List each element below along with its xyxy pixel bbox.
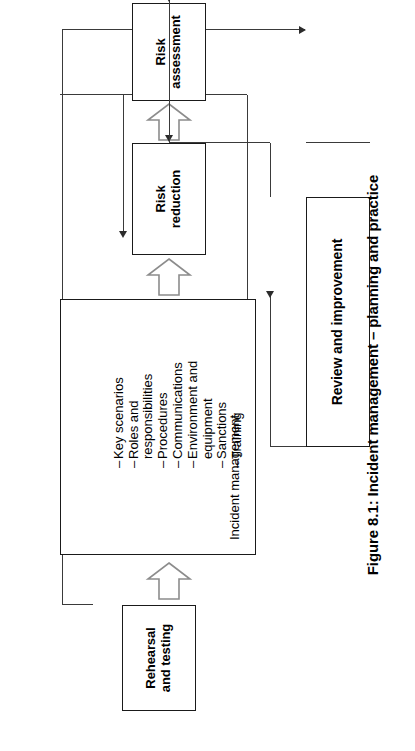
bullet-dash: – xyxy=(112,459,127,468)
list-item: –Procedures xyxy=(156,361,171,468)
node-rehearsal-and-testing[interactable]: Rehearsal and testing xyxy=(122,605,196,711)
node-review-and-improvement[interactable]: Review and improvement xyxy=(306,197,370,447)
feedback-review-exit xyxy=(270,143,271,197)
bullet-dash: – xyxy=(156,459,171,468)
list-item-label: Environment and xyxy=(185,361,200,459)
list-item: responsibilities xyxy=(141,361,156,468)
arrowhead-into-risk-reduction xyxy=(119,231,127,238)
bullet-dash: – xyxy=(127,459,142,468)
node-risk-assessment-line1: Risk xyxy=(154,15,169,88)
figure-caption: Figure 8.1: Incident management – planni… xyxy=(364,175,381,575)
list-item: –Communications xyxy=(171,361,186,468)
figure-canvas: Rehearsal and testing Incident managemen… xyxy=(0,0,415,751)
flowchart: Rehearsal and testing Incident managemen… xyxy=(0,0,415,751)
node-risk-reduction-line2: reduction xyxy=(169,170,184,228)
node-risk-reduction[interactable]: Risk reduction xyxy=(132,143,206,255)
feedback-stub-to-incident xyxy=(270,446,306,447)
list-item-label: Key scenarios xyxy=(111,377,126,459)
arrowhead-into-review xyxy=(299,26,306,34)
feedback-vertical-to-assessment xyxy=(60,94,123,95)
node-rehearsal-line2: and testing xyxy=(159,624,174,692)
node-incident-lead-line1: Incident xyxy=(227,494,242,540)
node-risk-assessment-line2: assessment xyxy=(169,15,184,88)
feedback-line-to-incident xyxy=(270,293,271,447)
arrowhead-assessment xyxy=(165,0,173,2)
feedback-trunk-reduction xyxy=(169,142,270,143)
list-item: –Environment and xyxy=(186,361,201,468)
node-risk-reduction-line1: Risk xyxy=(154,170,169,228)
node-rehearsal-line1: Rehearsal xyxy=(144,624,159,692)
list-item: –Training xyxy=(230,361,245,468)
arrowhead-incident xyxy=(266,291,274,298)
block-arrow-incident-to-rehearsal xyxy=(150,559,188,603)
list-item: equipment xyxy=(201,361,216,468)
node-review-label: Review and improvement xyxy=(330,239,346,406)
bullet-dash: – xyxy=(186,459,201,468)
node-incident-item-list: –Key scenarios –Roles and responsibiliti… xyxy=(112,361,245,468)
list-item-label: Procedures xyxy=(155,393,170,459)
bullet-dash: – xyxy=(230,459,245,468)
list-item-label: Training xyxy=(229,413,244,459)
list-item-label: Roles and xyxy=(126,400,141,459)
list-item: –Key scenarios xyxy=(112,361,127,468)
block-arrow-reduction-to-incident xyxy=(150,255,188,299)
list-item-label: Communications xyxy=(170,362,185,459)
connector-rehearsal-to-review-vertical-a xyxy=(62,604,93,605)
bullet-dash: – xyxy=(215,459,230,468)
feedback-line-to-assessment xyxy=(169,0,170,143)
bullet-dash: – xyxy=(171,459,186,468)
feedback-review-to-risk-reduction xyxy=(123,94,124,232)
list-item-label: equipment xyxy=(200,398,215,459)
list-item: –Roles and xyxy=(127,361,142,468)
list-item: –Sanctions xyxy=(215,361,230,468)
list-item-label: responsibilities xyxy=(140,374,155,459)
node-incident-management[interactable]: Incident management –Key scenarios –Role… xyxy=(60,299,256,555)
feedback-trunk xyxy=(306,142,370,143)
list-item-label: Sanctions xyxy=(214,402,229,459)
